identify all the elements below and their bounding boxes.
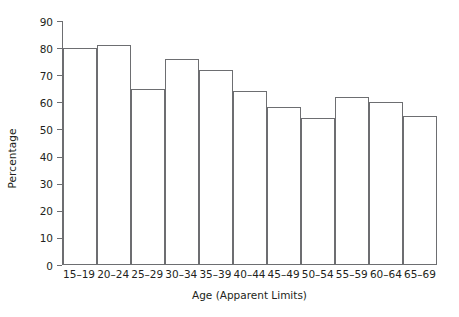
bar-chart: Percentage 0102030405060708090 15–1920–2… — [0, 0, 459, 317]
x-axis-title: Age (Apparent Limits) — [62, 289, 437, 301]
bar-cell — [369, 21, 403, 264]
bar — [301, 118, 335, 264]
bar — [335, 97, 369, 264]
y-tick-label: 90 — [40, 16, 53, 28]
y-tick: 70 — [57, 75, 62, 76]
x-tick-label: 35–39 — [198, 268, 232, 280]
x-tick-label: 25–29 — [130, 268, 164, 280]
y-tick-label: 60 — [40, 97, 53, 109]
y-tick-label: 70 — [40, 70, 53, 82]
bar — [165, 59, 199, 264]
plot-area: 0102030405060708090 — [62, 21, 437, 265]
y-tick-label: 10 — [40, 232, 53, 244]
x-tick-label: 40–44 — [232, 268, 266, 280]
x-tick-label: 45–49 — [267, 268, 301, 280]
x-tick-label: 55–59 — [335, 268, 369, 280]
bar-cell — [97, 21, 131, 264]
bar-cell — [63, 21, 97, 264]
x-axis-tick-labels: 15–1920–2425–2930–3435–3940–4445–4950–54… — [62, 268, 437, 280]
bar-cell — [131, 21, 165, 264]
y-tick: 50 — [57, 129, 62, 130]
y-tick-label: 0 — [46, 260, 53, 272]
y-tick: 80 — [57, 48, 62, 49]
bar — [267, 107, 301, 264]
x-tick-label: 65–69 — [403, 268, 437, 280]
y-tick-label: 40 — [40, 151, 53, 163]
bar-cell — [403, 21, 437, 264]
y-axis-title: Percentage — [0, 0, 24, 317]
bar-cell — [301, 21, 335, 264]
bar — [97, 45, 131, 264]
y-tick: 90 — [57, 21, 62, 22]
y-tick: 30 — [57, 184, 62, 185]
bar — [131, 89, 165, 265]
bar-cell — [335, 21, 369, 264]
y-tick-label: 30 — [40, 178, 53, 190]
bar — [199, 70, 233, 264]
bar-cell — [233, 21, 267, 264]
x-tick-label: 60–64 — [369, 268, 403, 280]
y-tick: 0 — [57, 265, 62, 266]
y-tick-label: 20 — [40, 205, 53, 217]
bar-cell — [199, 21, 233, 264]
bar-cell — [165, 21, 199, 264]
bars-layer — [63, 21, 437, 264]
bar — [63, 48, 97, 264]
x-tick-label: 20–24 — [96, 268, 130, 280]
bar-cell — [267, 21, 301, 264]
bar — [369, 102, 403, 264]
bar — [233, 91, 267, 264]
x-tick-label: 50–54 — [301, 268, 335, 280]
x-tick-label: 15–19 — [62, 268, 96, 280]
y-tick: 10 — [57, 238, 62, 239]
y-tick: 60 — [57, 102, 62, 103]
x-tick-label: 30–34 — [164, 268, 198, 280]
y-tick: 40 — [57, 157, 62, 158]
y-tick-label: 50 — [40, 124, 53, 136]
y-tick-label: 80 — [40, 43, 53, 55]
y-tick: 20 — [57, 211, 62, 212]
x-axis-line — [62, 264, 437, 265]
bar — [403, 116, 437, 265]
